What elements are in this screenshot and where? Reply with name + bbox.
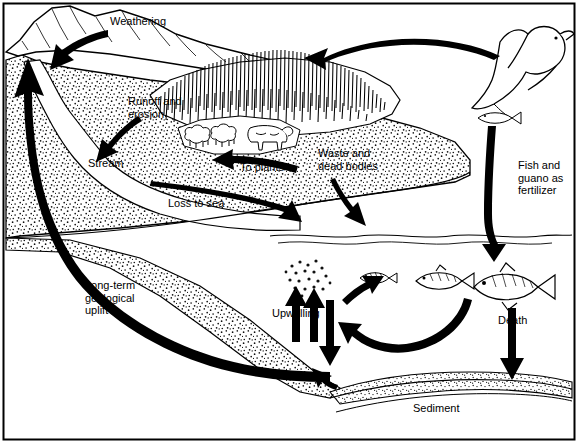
phosphorus-cycle-diagram: Weathering Runoff and erosion Stream To … xyxy=(0,0,578,443)
label-stream: Stream xyxy=(88,157,123,170)
label-long-term-geological-uplift: Long-term geological uplift xyxy=(85,279,135,317)
label-weathering: Weathering xyxy=(110,15,166,28)
label-sediment: Sediment xyxy=(413,402,459,415)
label-upwelling: Upwelling xyxy=(272,307,320,320)
label-waste-and-dead-bodies: Waste and dead bodies xyxy=(318,147,378,172)
label-runoff-and-erosion: Runoff and erosion xyxy=(128,95,182,120)
diagram-illustration xyxy=(0,0,578,443)
label-to-plants: To plants xyxy=(240,161,284,174)
label-death: Death xyxy=(498,314,527,327)
label-loss-to-sea: Loss to sea xyxy=(168,197,224,210)
label-fish-and-guano-as-fertilizer: Fish and guano as fertilizer xyxy=(518,159,563,197)
